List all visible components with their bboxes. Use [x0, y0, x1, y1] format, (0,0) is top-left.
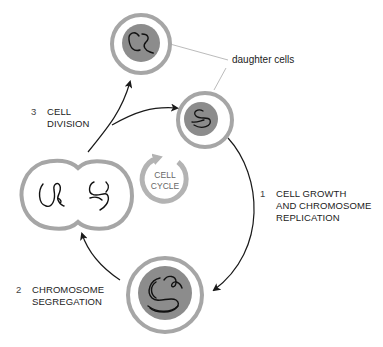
arrow-segregation — [82, 234, 120, 280]
arrow-to-top-daughter — [88, 82, 130, 152]
stage-2-line-1: CHROMOSOME — [32, 284, 104, 296]
stage-2-line-2: SEGREGATION — [32, 296, 104, 308]
stage-1-number: 1 — [260, 188, 265, 200]
arrow-growth — [214, 138, 254, 290]
stage-1-line-1: CELL GROWTH — [276, 188, 371, 200]
stage-3-line-2: DIVISION — [47, 118, 90, 130]
daughter-cell-top — [112, 15, 170, 73]
stage-1-line-3: REPLICATION — [276, 212, 371, 224]
stage-2-number: 2 — [16, 284, 21, 296]
arrow-to-right-daughter — [112, 108, 177, 125]
daughter-cell-right — [178, 93, 232, 147]
cell-cycle-label: CELL CYCLE — [145, 170, 185, 192]
callout-lines — [170, 44, 228, 90]
stage-3-number: 3 — [31, 106, 36, 118]
replicated-cell — [128, 258, 202, 332]
daughter-cells-label: daughter cells — [232, 54, 294, 65]
cell-cycle-diagram: daughter cells 3 CELL DIVISION 1 CELL GR… — [0, 0, 383, 347]
stage-3-line-1: CELL — [47, 106, 90, 118]
dividing-cell — [22, 161, 132, 229]
cell-cycle-line-2: CYCLE — [145, 181, 185, 192]
cell-cycle-line-1: CELL — [145, 170, 185, 181]
stage-1-line-2: AND CHROMOSOME — [276, 200, 371, 212]
